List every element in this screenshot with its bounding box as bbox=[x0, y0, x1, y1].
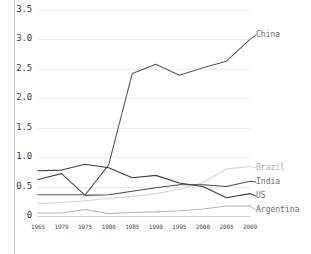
y-axis-tick-label: 1.5 bbox=[0, 122, 32, 132]
series-lines bbox=[38, 10, 250, 216]
x-axis-tick-label: 1975 bbox=[78, 223, 92, 230]
y-axis-tick-label: 3.5 bbox=[0, 4, 32, 14]
series-label-brazil: Brazil bbox=[256, 163, 285, 172]
x-axis-tick-label: 1965 bbox=[31, 223, 45, 230]
x-axis-tick-label: 1980 bbox=[102, 223, 116, 230]
x-axis-baseline bbox=[38, 216, 250, 217]
series-line-argentina bbox=[38, 206, 250, 214]
series-label-argentina: Argentina bbox=[256, 205, 299, 214]
plot-area bbox=[38, 10, 250, 216]
y-axis-tick-label: 0 bbox=[0, 210, 32, 220]
x-axis-tick-label: 1990 bbox=[149, 223, 163, 230]
x-axis-tick-label: 1985 bbox=[125, 223, 139, 230]
series-connector-argentina bbox=[250, 0, 260, 254]
connector-path bbox=[250, 206, 256, 210]
y-axis-tick-label: 0.5 bbox=[0, 181, 32, 191]
chart-figure: 3.53.02.52.01.51.00.50 19651970197519801… bbox=[0, 0, 311, 254]
y-axis-tick-label: 3.0 bbox=[0, 33, 32, 43]
x-axis-tick-label: 2000 bbox=[196, 223, 210, 230]
y-axis-tick-label: 2.5 bbox=[0, 63, 32, 73]
x-axis-tick-label: 1995 bbox=[172, 223, 186, 230]
y-axis-tick-label: 1.0 bbox=[0, 151, 32, 161]
series-line-brazil bbox=[38, 167, 250, 204]
y-axis-tick-label: 2.0 bbox=[0, 92, 32, 102]
series-line-china bbox=[38, 39, 250, 194]
x-axis-tick-label: 2005 bbox=[219, 223, 233, 230]
x-axis-tick-label: 1970 bbox=[55, 223, 69, 230]
